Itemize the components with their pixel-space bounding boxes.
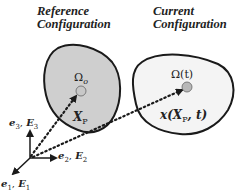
- reference-title: Reference Configuration: [37, 5, 111, 31]
- reference-domain-label: Ωo: [74, 71, 88, 86]
- current-point: [182, 82, 192, 92]
- reference-point: [76, 86, 86, 96]
- axis-e2-label: e2, E2: [58, 150, 87, 164]
- current-title: Current Configuration: [153, 5, 227, 31]
- current-title-line2: Configuration: [153, 18, 227, 31]
- current-mapping-label: x(XP, t): [160, 108, 207, 124]
- reference-title-line2: Configuration: [37, 18, 111, 31]
- reference-point-label: XP: [73, 110, 88, 126]
- axis-e3-label: e3, E3: [9, 117, 38, 131]
- axis-e1-label: e1, E1: [1, 178, 30, 192]
- current-domain-label: Ω(t): [171, 68, 193, 81]
- axis-e1-arrow: [13, 158, 30, 174]
